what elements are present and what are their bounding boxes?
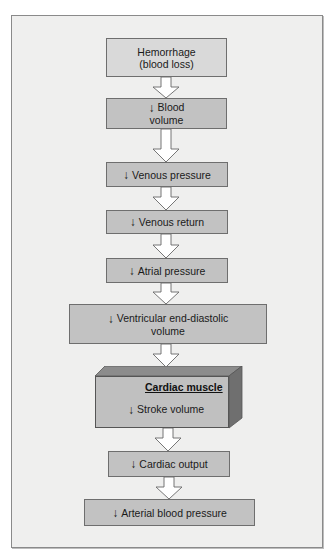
blood-volume-box: ↓Blood volume — [106, 98, 227, 129]
stroke-volume-label: ↓Stroke volume — [128, 403, 204, 417]
flow-arrow-icon — [152, 234, 182, 259]
blood-volume-line1: Blood — [158, 101, 185, 113]
cardiac-muscle-title: Cardiac muscle — [145, 381, 223, 393]
flow-arrow-icon — [155, 477, 185, 500]
decrease-arrow-icon: ↓ — [149, 102, 155, 114]
venous-pressure-label: Venous pressure — [132, 169, 211, 181]
venous-pressure-box: ↓Venous pressure — [106, 162, 228, 187]
atrial-pressure-label: Atrial pressure — [138, 265, 206, 277]
flow-arrow-icon — [154, 428, 184, 452]
blood-volume-line2: volume — [149, 114, 185, 126]
decrease-arrow-icon: ↓ — [128, 403, 134, 417]
hemorrhage-line2: (blood loss) — [137, 58, 195, 70]
decrease-arrow-icon: ↓ — [130, 458, 136, 470]
venous-return-box: ↓Venous return — [106, 210, 228, 234]
cardiac-output-box: ↓Cardiac output — [108, 451, 230, 477]
arterial-pressure-box: ↓Arterial blood pressure — [84, 499, 255, 526]
cardiac-output-label: Cardiac output — [139, 458, 207, 470]
venous-return-label: Venous return — [139, 216, 204, 228]
decrease-arrow-icon: ↓ — [123, 169, 129, 181]
ventricular-edv-line1: Ventricular end-diastolic — [117, 312, 228, 324]
hemorrhage-line1: Hemorrhage — [137, 46, 195, 58]
ventricular-edv-line2: volume — [108, 325, 228, 337]
decrease-arrow-icon: ↓ — [108, 313, 114, 325]
decrease-arrow-icon: ↓ — [130, 216, 136, 228]
ventricular-edv-box: ↓Ventricular end-diastolic volume — [69, 304, 267, 344]
decrease-arrow-icon: ↓ — [129, 265, 135, 277]
flow-arrow-icon — [152, 283, 182, 305]
flow-arrow-icon — [152, 77, 182, 99]
flow-arrow-icon — [152, 187, 182, 211]
flow-arrow-icon — [152, 129, 182, 163]
decrease-arrow-icon: ↓ — [112, 507, 118, 519]
hemorrhage-box: Hemorrhage (blood loss) — [106, 38, 227, 77]
flow-arrow-icon — [152, 344, 182, 368]
arterial-pressure-label: Arterial blood pressure — [121, 507, 227, 519]
atrial-pressure-box: ↓Atrial pressure — [106, 258, 228, 283]
